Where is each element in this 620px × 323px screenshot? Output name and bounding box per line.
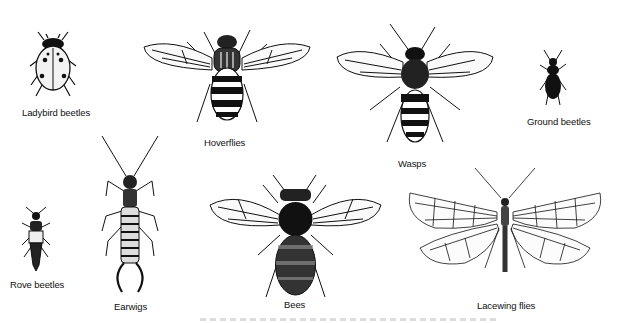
hoverfly-icon [142, 22, 312, 122]
label-lacewing-flies: Lacewing flies [477, 300, 535, 311]
label-ground-beetles: Ground beetles [527, 116, 591, 127]
wasp-icon [335, 22, 495, 152]
bee-icon [208, 175, 383, 300]
rove-beetle-icon [18, 207, 54, 273]
label-bees: Bees [284, 299, 305, 310]
label-rove-beetles: Rove beetles [10, 279, 64, 290]
ground-beetle-icon [538, 50, 568, 110]
lacewing-fly-icon [405, 168, 605, 288]
label-earwigs: Earwigs [114, 301, 147, 312]
label-ladybird-beetles: Ladybird beetles [22, 107, 90, 118]
insect-figure: Ladybird beetles Hoverflies Wasps [0, 0, 620, 323]
ladybird-beetle-icon [28, 30, 78, 100]
figure-caption-cropped [200, 318, 500, 321]
label-hoverflies: Hoverflies [204, 137, 245, 148]
earwig-icon [98, 136, 162, 296]
